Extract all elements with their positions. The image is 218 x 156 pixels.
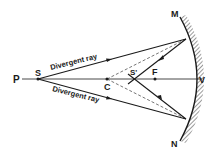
label-P: P xyxy=(13,74,20,85)
concave-mirror-diagram: P S C S' F V M N Divergent ray Divergent… xyxy=(0,0,218,156)
reflected-ray-lower xyxy=(128,74,186,119)
label-divergent-ray-lower: Divergent ray xyxy=(52,84,101,105)
label-V: V xyxy=(199,75,205,85)
label-N: N xyxy=(171,139,178,149)
label-M: M xyxy=(171,9,179,19)
label-C: C xyxy=(104,82,111,92)
label-F: F xyxy=(152,67,158,77)
point-F xyxy=(154,78,157,81)
label-S: S xyxy=(35,68,41,78)
normal-line-upper xyxy=(107,39,186,79)
arrow-icon xyxy=(158,55,164,61)
label-S-prime: S' xyxy=(130,68,137,77)
arrow-icon xyxy=(106,96,112,100)
arrow-icon xyxy=(106,59,112,63)
normal-line-lower xyxy=(107,79,186,119)
reflected-ray-upper xyxy=(128,39,186,84)
point-C xyxy=(106,78,109,81)
